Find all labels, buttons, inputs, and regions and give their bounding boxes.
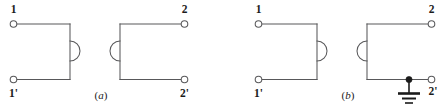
right-box-coupling-bump-icon [110,41,120,61]
terminal-label-1: 1 [11,3,17,15]
left-box-coupling-bump-icon-b [317,41,327,61]
figure-container: 1 1' 2 2' (a) [0,0,445,110]
subfigure-a: 1 1' 2 2' (a) [9,3,189,102]
subfigure-a-left-network [17,24,80,80]
terminal-dot-1prime[interactable] [10,76,17,83]
circuit-diagram-canvas: 1 1' 2 2' (a) [0,0,445,110]
subfigure-a-right-network [110,24,181,80]
terminal-dot-2[interactable] [181,21,188,28]
terminal-label-2prime: 2' [180,87,189,99]
terminal-dot-1[interactable] [10,21,17,28]
subfigure-b-right-network [357,24,428,80]
subfigure-caption-b-close-paren: ) [351,89,355,102]
ground-connection-group [398,76,420,103]
subfigure-b-left-network [262,24,327,80]
terminal-dot-2prime-b[interactable] [428,76,435,83]
terminal-label-1prime: 1' [9,87,18,99]
subfigure-caption-b: (b) [342,89,355,102]
terminal-dot-1-b[interactable] [255,21,262,28]
subfigure-caption-a-close-paren: ) [104,89,108,102]
terminal-dot-1prime-b[interactable] [255,76,262,83]
terminal-label-2prime-b: 2' [429,85,438,97]
subfigure-b: 1 1' 2 2' (b) [254,3,437,103]
right-box-coupling-bump-icon-b [357,41,367,61]
terminal-label-2: 2 [182,3,188,15]
terminal-dot-2prime[interactable] [181,76,188,83]
left-box-coupling-bump-icon [70,41,80,61]
terminal-dot-2-b[interactable] [428,21,435,28]
subfigure-caption-a: (a) [95,89,108,102]
terminal-label-2-b: 2 [429,3,435,15]
terminal-label-1prime-b: 1' [254,87,263,99]
terminal-label-1-b: 1 [256,3,262,15]
